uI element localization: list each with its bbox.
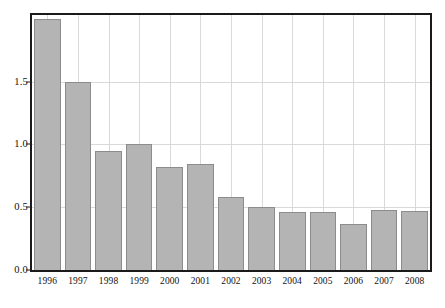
x-axis-tick-label: 2008 [405,277,424,287]
x-axis-tick-labels: 1996199719981999200020012002200320042005… [30,277,432,297]
plot-area [30,13,432,272]
y-axis-tick-label: 1.0 [2,139,28,150]
y-axis-tick-label: 0.5 [2,202,28,213]
bar [310,212,337,270]
bar [401,211,428,270]
bar [65,82,92,270]
bar [187,164,214,270]
x-axis-tick-label: 2000 [160,277,179,287]
y-axis-tick-label: 0.0 [2,265,28,276]
x-axis-tick-label: 1998 [99,277,118,287]
y-axis-tick-label: 1.5 [2,76,28,87]
x-axis-tick-label: 2002 [221,277,240,287]
x-axis-tick-label: 1997 [68,277,87,287]
bar [279,212,306,270]
x-axis-tick-label: 2004 [283,277,302,287]
x-axis-tick-label: 1996 [38,277,57,287]
bar [371,210,398,270]
y-axis-tick-labels: 0.00.51.01.5 [0,0,28,308]
x-axis-tick-label: 2003 [252,277,271,287]
bar [218,197,245,270]
bar [248,207,275,270]
bar [95,151,122,270]
x-axis-tick-label: 2001 [191,277,210,287]
x-axis-tick-label: 2005 [313,277,332,287]
bar [34,19,61,270]
bar-chart-figure: 0.00.51.01.5 199619971998199920002001200… [0,0,445,308]
x-axis-tick-label: 2007 [374,277,393,287]
bar [156,167,183,270]
x-axis-tick-label: 2006 [344,277,363,287]
bar [126,144,153,270]
x-axis-tick-label: 1999 [129,277,148,287]
bar [340,224,367,270]
